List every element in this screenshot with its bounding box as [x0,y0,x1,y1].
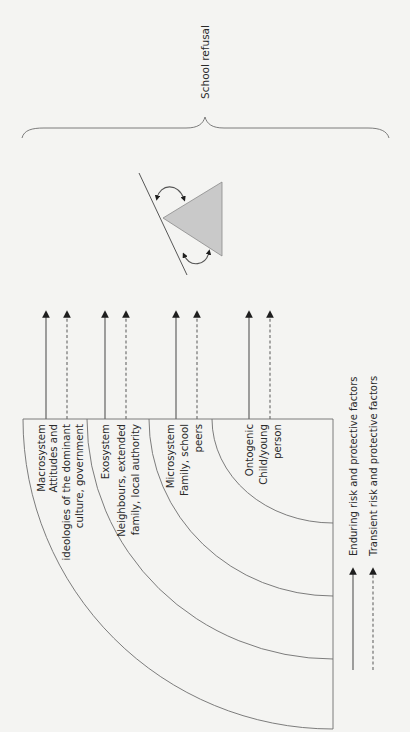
exosystem-desc-2: family, local authority [130,424,141,535]
interaction-triangle-group [139,173,222,275]
macrosystem-desc-2: ideologies of the dominant [61,424,72,561]
exosystem-desc-1: Neighbours, extended [116,424,127,537]
macrosystem-desc-3: culture, government [74,424,85,528]
system-labels: Macrosystem Attitudes and ideologies of … [36,424,283,561]
ecological-model-diagram: School refusal Macrosystem Att [0,0,410,732]
ontogenic-desc-2: person [272,424,283,459]
curved-double-arrow-upper [157,187,184,199]
arc-microsystem [149,419,333,596]
legend-enduring-label: Enduring risk and protective factors [348,376,359,556]
curly-brace [22,117,389,138]
curved-double-arrow-lower [184,252,209,264]
factor-arrows [46,314,270,419]
microsystem-title: Microsystem [165,424,176,488]
legend-transient-label: Transient risk and protective factors [368,376,379,557]
macrosystem-desc-1: Attitudes and [48,424,59,493]
legend: Enduring risk and protective factors Tra… [348,376,379,670]
label-exosystem: Exosystem Neighbours, extended family, l… [100,424,141,537]
label-ontogenic: Ontogenic Child/young person [244,424,283,485]
outcome-label: School refusal [199,25,211,99]
exosystem-title: Exosystem [100,424,111,479]
outcome-group: School refusal [22,25,389,138]
microsystem-desc-1: Family, school [179,424,190,496]
ontogenic-title: Ontogenic [244,424,255,476]
microsystem-desc-2: peers [193,424,204,453]
label-macrosystem: Macrosystem Attitudes and ideologies of … [36,424,85,561]
ontogenic-desc-1: Child/young [258,424,269,485]
macrosystem-title: Macrosystem [36,424,47,492]
triangle-shape [163,182,222,256]
label-microsystem: Microsystem Family, school peers [165,424,204,496]
